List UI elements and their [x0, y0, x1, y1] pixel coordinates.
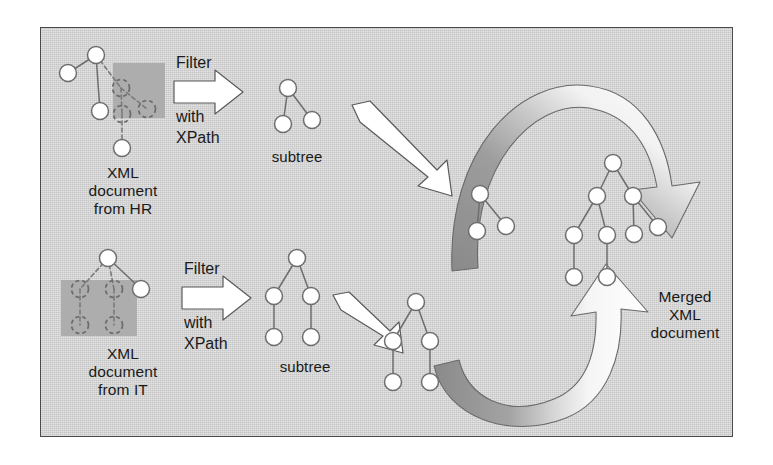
tree-node: [625, 188, 642, 205]
tree-node: [88, 47, 105, 64]
tree-node: [605, 155, 622, 172]
filter-label-bottom-line1: Filter: [184, 259, 220, 278]
tree-node: [266, 288, 283, 305]
tree-node: [304, 112, 321, 129]
tree-node: [422, 374, 439, 391]
tree-node: [100, 250, 117, 267]
tree-node: [650, 219, 667, 236]
tree-subtree-bottom: [266, 250, 320, 346]
tree-node: [275, 116, 292, 133]
merge-curve-bottom: [434, 264, 648, 426]
filter-label-top-line2: with: [176, 107, 204, 126]
tree-node: [498, 218, 515, 235]
label-source-it: XML document from IT: [48, 345, 198, 399]
tree-node: [92, 103, 109, 120]
tree-staged-bottom: [385, 294, 439, 391]
tree-node: [566, 227, 583, 244]
tree-node: [599, 227, 616, 244]
tree-node: [469, 223, 486, 240]
diagram-canvas: XML document from HR XML document from I…: [0, 0, 773, 465]
tree-node: [385, 333, 402, 350]
tree-node: [589, 188, 606, 205]
filter-label-top-line3: XPath: [176, 128, 220, 147]
tree-node: [114, 140, 131, 157]
label-subtree-top: subtree: [242, 148, 352, 166]
transfer-arrow-top: [352, 101, 452, 196]
tree-node: [422, 333, 439, 350]
tree-node: [599, 269, 616, 286]
tree-node: [60, 65, 77, 82]
tree-node: [266, 329, 283, 346]
tree-node: [626, 226, 643, 243]
filter-label-top-line1: Filter: [176, 53, 212, 72]
label-source-hr: XML document from HR: [48, 164, 198, 218]
tree-node: [303, 329, 320, 346]
tree-node: [289, 250, 306, 267]
tree-node: [385, 374, 402, 391]
tree-node: [472, 186, 489, 203]
label-subtree-bottom: subtree: [250, 358, 360, 376]
label-merged-document: Merged XML document: [625, 288, 745, 342]
tree-merged: [566, 155, 667, 286]
tree-node: [303, 288, 320, 305]
tree-node: [133, 281, 150, 298]
tree-node: [280, 80, 297, 97]
filter-label-bottom-line2: with: [184, 313, 212, 332]
tree-subtree-top: [275, 80, 321, 133]
tree-node: [408, 294, 425, 311]
tree-node: [566, 269, 583, 286]
filter-label-bottom-line3: XPath: [184, 334, 228, 353]
